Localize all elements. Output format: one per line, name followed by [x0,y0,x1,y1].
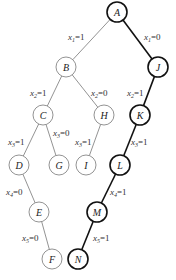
edge-c-d [23,124,38,156]
edge-label-b-h: x2=0 [90,88,108,99]
node-l: L [110,155,130,175]
edge-d-e [23,174,35,203]
edge-label-d-e: x4=0 [5,187,23,198]
svg-text:E: E [35,207,42,218]
edge-label-k-l: x3=1 [130,137,148,148]
node-b: B [56,57,76,77]
edge-label-m-n: x5=1 [92,233,110,244]
node-g: G [49,155,69,175]
edge-label-e-f: x5=0 [21,233,39,244]
node-k: K [130,105,150,125]
node-a: A [107,2,127,22]
node-n: N [68,249,88,269]
node-h: H [94,105,114,125]
svg-text:N: N [74,254,83,265]
svg-text:K: K [136,110,145,121]
edge-label-a-j: x1=0 [143,32,161,43]
node-e: E [29,202,49,222]
edge-label-l-m: x4=1 [109,187,127,198]
svg-text:J: J [156,62,161,73]
search-tree-diagram: x1=1x1=0x2=1x2=0x2=1x3=1x3=0x3=1x3=1x4=0… [0,0,176,280]
svg-text:M: M [92,207,102,218]
svg-text:L: L [116,160,123,171]
node-j: J [148,57,168,77]
edge-label-b-c: x2=1 [29,88,47,99]
edge-label-j-k: x2=1 [126,88,144,99]
edge-b-c [47,76,61,106]
svg-text:I: I [83,160,88,171]
edge-labels: x1=1x1=0x2=1x2=0x2=1x3=1x3=0x3=1x3=1x4=0… [5,32,161,244]
node-f: F [42,249,62,269]
edge-label-c-d: x3=1 [7,137,25,148]
svg-text:F: F [48,254,56,265]
svg-text:B: B [63,62,69,73]
svg-text:H: H [99,110,108,121]
node-c: C [33,105,53,125]
svg-text:A: A [113,7,121,18]
edge-label-c-g: x3=0 [52,128,70,139]
node-d: D [9,155,29,175]
edge-j-k [144,76,155,105]
edge-label-a-b: x1=1 [67,32,85,43]
edge-label-h-i: x3=1 [74,137,92,148]
svg-text:C: C [40,110,47,121]
svg-text:G: G [55,160,62,171]
edge-e-f [42,222,50,250]
edge-m-n [82,221,94,249]
node-m: M [87,202,107,222]
svg-text:D: D [14,160,23,171]
node-i: I [76,155,96,175]
